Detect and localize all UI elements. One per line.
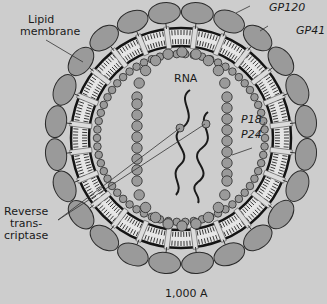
rna-strands xyxy=(176,90,210,203)
hiv-virion-diagram xyxy=(0,0,327,304)
scale-label: 1,000 A xyxy=(165,288,208,300)
label-lipid-membrane: Lipid membrane xyxy=(20,14,80,38)
label-lipid-line2: membrane xyxy=(20,26,80,38)
label-p18: P18 xyxy=(241,114,262,126)
label-rna: RNA xyxy=(174,73,197,85)
label-reverse-transcriptase: Reverse trans- criptase xyxy=(4,206,48,242)
label-gp120: GP120 xyxy=(269,2,305,14)
label-rt-line3: criptase xyxy=(4,230,48,242)
label-gp41: GP41 xyxy=(296,25,325,37)
label-p24: P24 xyxy=(241,129,262,141)
